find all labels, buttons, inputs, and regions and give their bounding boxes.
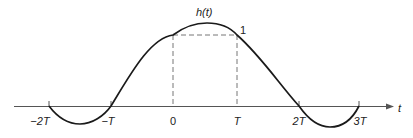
tick-label-negT: −T	[101, 115, 115, 127]
peak-marker-label: 1	[240, 24, 246, 36]
h-of-t-curve	[49, 23, 359, 127]
tick-label-0: 0	[170, 115, 176, 127]
axis-label: t	[398, 102, 402, 114]
axis-arrow-icon	[386, 104, 394, 110]
diagram-canvas: h(t) 1 t −2T −T 0 T 2T 3T	[0, 0, 413, 138]
tick-label-3T: 3T	[354, 115, 368, 127]
tick-label-2T: 2T	[292, 115, 307, 127]
pulse-diagram: h(t) 1 t −2T −T 0 T 2T 3T	[0, 0, 413, 138]
tick-label-T: T	[234, 115, 242, 127]
tick-label-neg2T: −2T	[30, 115, 51, 127]
function-label: h(t)	[196, 6, 213, 18]
dashed-rectangle	[173, 35, 237, 106]
